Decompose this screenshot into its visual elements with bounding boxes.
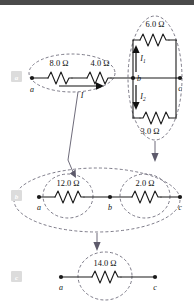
reduction-arrow-b-to-c [93, 233, 100, 251]
node-label-a-panel-c: a [59, 283, 63, 292]
resistor-symbol-14ohm [92, 271, 121, 283]
node-dot-a-panel-b [37, 195, 41, 199]
node-label-a-panel-a: a [30, 85, 34, 94]
resistor-symbol-8ohm [48, 72, 72, 84]
resistor-label-2ohm: 2.0 Ω [136, 179, 155, 188]
resistor-symbol-6ohm [140, 34, 169, 46]
current-label-I: I [80, 91, 84, 100]
current-label-I2: I2 [139, 92, 146, 102]
panel-a: 8.0 Ω 4.0 Ω 6.0 Ω 3.0 Ω a b c I I1 I2 a [11, 16, 182, 140]
node-dot-a-panel-c [59, 275, 63, 279]
current-arrow-I-head [96, 82, 104, 90]
node-label-c-panel-a: c [178, 84, 182, 93]
node-dot-b-panel-b [108, 195, 112, 199]
node-label-c-panel-b: c [178, 203, 182, 212]
node-dot-c-panel-a [178, 76, 182, 80]
reduction-arrow-total-head [93, 242, 100, 251]
node-label-a-panel-b: a [37, 203, 41, 212]
panel-badge-a-label: a [15, 74, 19, 82]
node-dot-c-panel-b [178, 195, 182, 199]
resistor-label-12ohm: 12.0 Ω [57, 179, 80, 188]
resistor-label-4ohm: 4.0 Ω [91, 59, 110, 68]
resistor-symbol-12ohm [55, 191, 84, 203]
reduction-arrow-series-shaft [68, 92, 78, 172]
node-dot-b-panel-a [131, 76, 135, 80]
resistor-symbol-2ohm [132, 191, 161, 203]
resistor-label-8ohm: 8.0 Ω [50, 59, 69, 68]
panel-badge-c-label: c [15, 274, 18, 282]
resistor-symbol-4ohm [87, 72, 111, 84]
resistor-label-3ohm: 3.0 Ω [141, 127, 160, 136]
panel-badge-b-label: b [15, 193, 19, 201]
resistor-label-6ohm: 6.0 Ω [146, 20, 165, 29]
resistor-symbol-3ohm [140, 112, 169, 124]
node-label-c-panel-c: c [153, 283, 157, 292]
current-label-I1: I1 [139, 54, 146, 64]
figure-root: 8.0 Ω 4.0 Ω 6.0 Ω 3.0 Ω a b c I I1 I2 a [0, 0, 194, 304]
panel-c: 14.0 Ω a c c [11, 252, 157, 300]
reduction-arrow-parallel-head [151, 153, 158, 162]
resistor-label-14ohm: 14.0 Ω [94, 259, 117, 268]
node-label-b-panel-a: b [137, 74, 141, 83]
node-label-b-panel-b: b [108, 203, 112, 212]
node-dot-a-panel-a [30, 76, 34, 80]
circuit-diagram: 8.0 Ω 4.0 Ω 6.0 Ω 3.0 Ω a b c I I1 I2 a [0, 0, 194, 304]
panel-b: 12.0 Ω 2.0 Ω a b c b [11, 168, 182, 232]
grouping-ellipse-total-series [14, 168, 180, 232]
node-dot-c-panel-c [153, 275, 157, 279]
